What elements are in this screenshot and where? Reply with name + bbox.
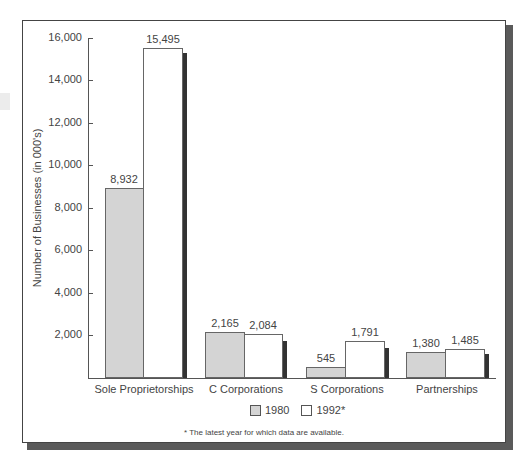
y-tick-label: 12,000 <box>22 116 82 128</box>
legend-swatch-1980 <box>250 405 261 416</box>
y-tick-label: 8,000 <box>22 201 82 213</box>
bar-1980-s-corporations <box>306 367 346 378</box>
value-label: 1,791 <box>340 326 390 338</box>
legend: 1980 1992* <box>250 404 345 416</box>
x-axis <box>88 378 496 379</box>
y-tick-label: 14,000 <box>22 73 82 85</box>
category-label: Partnerships <box>392 383 502 395</box>
y-tick <box>88 38 93 39</box>
y-tick-label: 16,000 <box>22 31 82 43</box>
y-tick <box>88 335 93 336</box>
legend-label-1980: 1980 <box>265 404 289 416</box>
y-tick-label: 2,000 <box>22 328 82 340</box>
y-tick-label: 4,000 <box>22 286 82 298</box>
value-label: 8,932 <box>99 173 149 185</box>
chart-frame <box>22 20 506 443</box>
footnote: * The latest year for which data are ava… <box>22 428 506 437</box>
y-tick <box>88 165 93 166</box>
y-tick <box>88 293 93 294</box>
bar-1992-s-corporations <box>345 341 385 378</box>
y-tick <box>88 208 93 209</box>
y-tick <box>88 123 93 124</box>
bar-1980-partnerships <box>406 352 446 378</box>
bar-1980-sole-proprietorships <box>105 188 144 378</box>
edge-mark <box>0 93 10 110</box>
value-label: 545 <box>301 352 351 364</box>
value-label: 1,485 <box>440 334 490 346</box>
value-label: 2,084 <box>238 319 288 331</box>
value-label: 15,495 <box>138 33 188 45</box>
legend-swatch-1992 <box>301 405 312 416</box>
bar-1980-c-corporations <box>205 332 245 378</box>
bar-1992-c-corporations <box>244 334 283 378</box>
category-label: C Corporations <box>191 383 301 395</box>
y-tick <box>88 80 93 81</box>
bar-1992-partnerships <box>445 349 485 378</box>
legend-label-1992: 1992* <box>316 404 345 416</box>
bar-1992-sole-proprietorships <box>143 48 183 378</box>
category-label: Sole Proprietorships <box>89 383 199 395</box>
category-label: S Corporations <box>292 383 402 395</box>
y-tick-label: 10,000 <box>22 158 82 170</box>
y-tick <box>88 250 93 251</box>
y-tick-label: 6,000 <box>22 243 82 255</box>
